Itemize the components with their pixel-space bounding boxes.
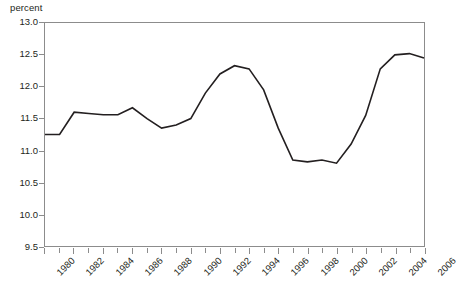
x-axis-tick-mark — [278, 248, 279, 254]
x-axis-tick-label: 1988 — [171, 255, 194, 278]
y-axis-tick-label: 12.5 — [6, 49, 38, 59]
x-axis-tick-label: 2006 — [435, 255, 458, 278]
x-axis-tick-mark — [366, 248, 367, 254]
x-axis-tick-mark — [73, 248, 74, 254]
series-polyline — [45, 54, 424, 164]
x-axis-tick-mark — [220, 248, 221, 254]
x-axis-tick-mark — [322, 248, 323, 253]
x-axis-tick-mark — [205, 248, 206, 253]
x-axis-tick-label: 1998 — [318, 255, 341, 278]
x-axis-tick-label: 1980 — [54, 255, 77, 278]
series-line-percent — [45, 23, 424, 246]
x-axis-tick-mark — [352, 248, 353, 253]
x-axis-tick-mark — [410, 248, 411, 253]
x-axis-tick-mark — [381, 248, 382, 253]
y-axis-tick-label: 10.5 — [6, 178, 38, 188]
y-axis-tick-label: 12.0 — [6, 81, 38, 91]
y-axis-tick-label: 11.0 — [6, 146, 38, 156]
x-axis-tick-mark — [132, 248, 133, 254]
x-axis-tick-mark — [264, 248, 265, 253]
y-axis-tick-label: 10.0 — [6, 210, 38, 220]
y-axis-tick-label: 9.5 — [6, 242, 38, 252]
x-axis-tick-mark — [147, 248, 148, 253]
x-axis-tick-label: 1984 — [113, 255, 136, 278]
x-axis-tick-mark — [293, 248, 294, 253]
x-axis-tick-mark — [161, 248, 162, 254]
x-axis-tick-label: 1992 — [230, 255, 253, 278]
x-axis-tick-mark — [88, 248, 89, 253]
x-axis-tick-mark — [44, 248, 45, 254]
y-axis-tick-mark — [39, 22, 44, 23]
y-axis-tick-mark — [39, 183, 44, 184]
x-axis-tick-mark — [425, 248, 426, 254]
x-axis-tick-mark — [103, 248, 104, 254]
y-axis-tick-label-group: 13.012.512.011.511.010.510.09.5 — [0, 0, 38, 289]
x-axis-tick-label: 1994 — [259, 255, 282, 278]
x-axis-tick-label: 2004 — [406, 255, 429, 278]
x-axis-tick-mark — [176, 248, 177, 253]
x-axis-tick-mark — [308, 248, 309, 254]
y-axis-tick-mark — [39, 118, 44, 119]
x-axis-tick-mark — [59, 248, 60, 253]
x-axis-tick-label: 1996 — [289, 255, 312, 278]
x-axis-tick-label: 1982 — [83, 255, 106, 278]
y-axis-tick-mark — [39, 151, 44, 152]
y-axis-tick-label: 13.0 — [6, 17, 38, 27]
x-axis-tick-mark — [191, 248, 192, 254]
x-axis-tick-mark — [249, 248, 250, 254]
x-axis-tick-label: 1986 — [142, 255, 165, 278]
x-axis-tick-mark — [235, 248, 236, 253]
x-axis-tick-mark — [337, 248, 338, 254]
x-axis-tick-label: 2000 — [347, 255, 370, 278]
plot-area — [44, 22, 425, 247]
x-axis-tick-label: 2002 — [377, 255, 400, 278]
y-axis-tick-mark — [39, 215, 44, 216]
x-axis-tick-label: 1990 — [201, 255, 224, 278]
y-axis-tick-mark — [39, 54, 44, 55]
x-axis-tick-mark — [396, 248, 397, 254]
y-axis-tick-label: 11.5 — [6, 113, 38, 123]
x-axis-tick-mark — [117, 248, 118, 253]
y-axis-tick-mark — [39, 86, 44, 87]
